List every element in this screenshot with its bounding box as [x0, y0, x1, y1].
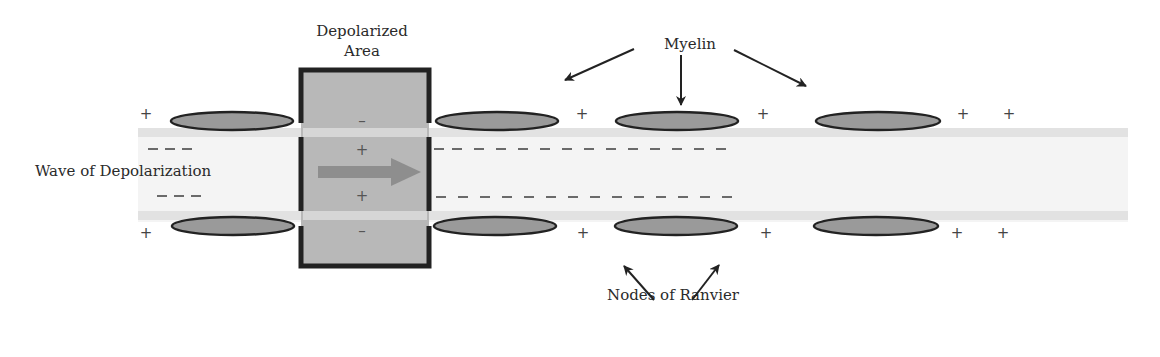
- depolarized-area-label-line1: Depolarized: [316, 22, 408, 40]
- charge-plus: +: [957, 105, 970, 123]
- myelin-label: Myelin: [664, 35, 716, 53]
- charge-plus: +: [951, 224, 964, 242]
- myelinated-axon-diagram: + + + + + + + + + + – + + – Depolarized …: [0, 0, 1160, 357]
- myelin-sheath: [172, 217, 294, 235]
- charge-plus: +: [140, 105, 153, 123]
- myelin-sheath: [434, 217, 556, 235]
- myelin-sheath: [171, 112, 293, 130]
- arrow-icon: [734, 50, 806, 86]
- myelin-sheath: [816, 112, 940, 130]
- myelin-sheath: [616, 112, 738, 130]
- charge-plus: +: [757, 105, 770, 123]
- charge-minus: –: [358, 112, 366, 130]
- nodes-of-ranvier-label: Nodes of Ranvier: [607, 286, 740, 304]
- charge-plus: +: [576, 105, 589, 123]
- axon-membrane-top: [138, 128, 1128, 137]
- charge-plus: +: [356, 141, 369, 159]
- axon: [138, 128, 1128, 222]
- charge-plus: +: [356, 187, 369, 205]
- myelin-sheath: [814, 217, 938, 235]
- charge-plus: +: [1003, 105, 1016, 123]
- charge-plus: +: [140, 224, 153, 242]
- arrow-icon: [565, 49, 634, 80]
- myelin-sheath: [436, 112, 558, 130]
- charge-plus: +: [997, 224, 1010, 242]
- myelin-pointer-arrows: [565, 49, 806, 105]
- depolarized-area-label-line2: Area: [343, 42, 380, 60]
- charge-minus: –: [358, 222, 366, 240]
- wave-of-depolarization-label: Wave of Depolarization: [35, 162, 211, 180]
- axon-interior: [138, 128, 1128, 222]
- charge-plus: +: [577, 224, 590, 242]
- myelin-sheath: [615, 217, 737, 235]
- charge-plus: +: [760, 224, 773, 242]
